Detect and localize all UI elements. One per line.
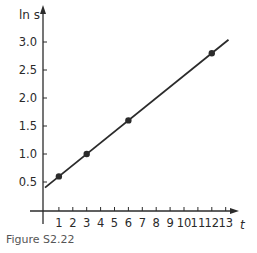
data-point bbox=[56, 173, 62, 179]
x-tick-label: 3 bbox=[83, 216, 90, 230]
fit-line bbox=[45, 40, 228, 188]
y-tick-label: 1.5 bbox=[19, 119, 37, 133]
x-axis-title: t bbox=[240, 218, 246, 232]
x-tick-label: 4 bbox=[97, 216, 104, 230]
x-tick-label: 9 bbox=[166, 216, 173, 230]
x-tick-label: 7 bbox=[139, 216, 146, 230]
y-tick-label: 3.0 bbox=[19, 35, 37, 49]
x-tick-label: 1 bbox=[55, 216, 62, 230]
x-tick-label: 2 bbox=[69, 216, 76, 230]
figure-caption: Figure S2.22 bbox=[6, 233, 75, 246]
x-tick-label: 13 bbox=[218, 216, 233, 230]
x-axis-arrow-icon bbox=[230, 208, 239, 214]
chart: 12345678910111213 0.51.01.52.02.53.0 ln … bbox=[0, 0, 257, 233]
x-tick-label: 10 bbox=[177, 216, 192, 230]
x-tick-label: 11 bbox=[191, 216, 206, 230]
x-tick-label: 12 bbox=[204, 216, 219, 230]
x-tick-label: 6 bbox=[125, 216, 132, 230]
series bbox=[45, 40, 228, 188]
y-tick-label: 2.0 bbox=[19, 91, 37, 105]
data-point bbox=[125, 117, 131, 123]
y-tick-label: 0.5 bbox=[19, 175, 37, 189]
x-tick-label: 5 bbox=[111, 216, 118, 230]
data-point bbox=[209, 50, 215, 56]
y-tick-label: 1.0 bbox=[19, 147, 37, 161]
y-tick-label: 2.5 bbox=[19, 63, 37, 77]
x-tick-label: 8 bbox=[153, 216, 160, 230]
y-axis-arrow-icon bbox=[40, 5, 46, 14]
data-point bbox=[84, 151, 90, 157]
y-axis-title: ln s bbox=[19, 8, 40, 22]
